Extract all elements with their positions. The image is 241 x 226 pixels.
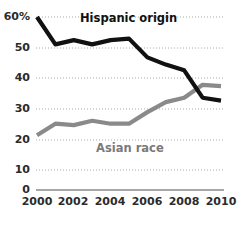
series-label-asian-race: Asian race	[96, 141, 164, 155]
series-line-hispanic-origin	[37, 17, 221, 101]
x-tick-label-2002: 2002	[56, 196, 90, 208]
series-label-hispanic-origin: Hispanic origin	[80, 11, 177, 25]
y-tick-30: 30	[0, 103, 30, 114]
line-chart: 60% 50 40 30 20 10 0 2000 2002 2004 2006…	[0, 0, 241, 226]
x-tick-label-2000: 2000	[20, 196, 54, 208]
x-tick-label-2008: 2008	[167, 196, 201, 208]
y-tick-label-40: 40	[0, 72, 30, 83]
y-tick-label-50: 50	[0, 42, 30, 53]
y-tick-label-20: 20	[0, 134, 30, 145]
y-tick-label-10: 10	[0, 164, 30, 175]
x-tick-label-2006: 2006	[130, 196, 164, 208]
y-tick-label-0: 0	[0, 184, 30, 195]
y-tick-label-60: 60%	[0, 11, 30, 22]
y-tick-40: 40	[0, 72, 30, 83]
x-tick-label-2010: 2010	[204, 196, 238, 208]
y-tick-label-30: 30	[0, 103, 30, 114]
x-tick-label-2004: 2004	[93, 196, 127, 208]
y-tick-50: 50	[0, 42, 30, 53]
series-line-asian-race	[37, 85, 221, 135]
chart-plot-area	[0, 0, 241, 226]
y-tick-10: 10	[0, 164, 30, 175]
y-tick-20: 20	[0, 134, 30, 145]
y-tick-60: 60%	[0, 11, 30, 22]
y-tick-0: 0	[0, 184, 30, 195]
